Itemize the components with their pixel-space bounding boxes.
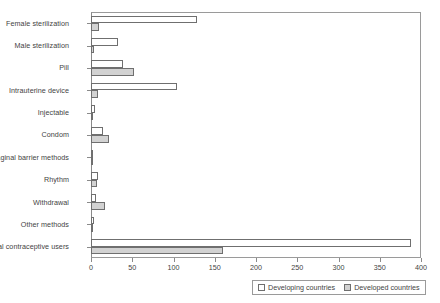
y-axis-category-label: Total contraceptive users	[0, 242, 69, 251]
chart-rows: Female sterilizationMale sterilizationPi…	[0, 12, 421, 258]
chart-row: Female sterilization	[0, 12, 421, 34]
y-axis-category-label: Other methods	[0, 220, 69, 229]
y-axis-category-label: Pill	[0, 63, 69, 72]
y-axis-category-label: Condom	[0, 130, 69, 139]
bar-developed	[91, 180, 97, 188]
legend-label: Developing countries	[268, 283, 335, 292]
bar-developing	[91, 172, 98, 180]
x-axis-tick	[132, 258, 133, 262]
x-axis-tick-label: 150	[200, 263, 230, 272]
chart-row: Condom	[0, 124, 421, 146]
bar-developed	[91, 23, 99, 31]
x-axis-tick	[297, 258, 298, 262]
bar-developed	[91, 68, 134, 76]
x-axis-tick-label: 0	[76, 263, 106, 272]
bar-chart: Female sterilizationMale sterilizationPi…	[0, 0, 440, 303]
chart-row: Total contraceptive users	[0, 236, 421, 258]
x-axis-tick-label: 50	[117, 263, 147, 272]
x-axis-tick	[174, 258, 175, 262]
bar-developing	[91, 16, 197, 24]
bar-developing	[91, 239, 411, 247]
y-axis-category-label: Intrauterine device	[0, 86, 69, 95]
legend-swatch-developed-icon	[344, 284, 351, 291]
x-axis-tick	[91, 258, 92, 262]
chart-row: Injectable	[0, 101, 421, 123]
chart-row: Withdrawal	[0, 191, 421, 213]
x-axis-tick-label: 300	[324, 263, 354, 272]
chart-legend: Developing countriesDeveloped countries	[252, 280, 426, 295]
y-axis-category-label: Vaginal barrier methods	[0, 153, 69, 162]
y-axis-category-label: Male sterilization	[0, 41, 69, 50]
bar-developing	[91, 150, 93, 158]
y-axis-category-label: Withdrawal	[0, 198, 69, 207]
legend-item-developing[interactable]: Developing countries	[258, 283, 335, 292]
x-axis-tick	[421, 258, 422, 262]
chart-row: Male sterilization	[0, 34, 421, 56]
bar-developed	[91, 113, 93, 121]
bar-developing	[91, 127, 103, 135]
y-axis-category-label: Injectable	[0, 108, 69, 117]
x-axis-tick	[256, 258, 257, 262]
bar-developed	[91, 46, 94, 54]
bar-developed	[91, 202, 105, 210]
legend-swatch-developing-icon	[258, 284, 265, 291]
bar-developed	[91, 224, 93, 232]
bar-developing	[91, 194, 96, 202]
bar-developing	[91, 38, 118, 46]
y-axis-category-label: Female sterilization	[0, 19, 69, 28]
x-axis-tick-label: 400	[406, 263, 436, 272]
bar-developed	[91, 135, 109, 143]
chart-row: Other methods	[0, 213, 421, 235]
chart-row: Pill	[0, 57, 421, 79]
legend-item-developed[interactable]: Developed countries	[344, 283, 420, 292]
chart-row: Vaginal barrier methods	[0, 146, 421, 168]
bar-developing	[91, 217, 94, 225]
x-axis-tick	[380, 258, 381, 262]
x-axis-tick	[339, 258, 340, 262]
bar-developing	[91, 60, 123, 68]
bar-developing	[91, 83, 177, 91]
y-axis-category-label: Rhythm	[0, 175, 69, 184]
x-axis-tick-label: 200	[241, 263, 271, 272]
bar-developed	[91, 247, 223, 255]
x-axis: 050100150200250300350400	[91, 258, 421, 280]
x-axis-tick	[215, 258, 216, 262]
x-axis-tick-label: 100	[159, 263, 189, 272]
x-axis-tick-label: 250	[282, 263, 312, 272]
chart-row: Rhythm	[0, 169, 421, 191]
bar-developing	[91, 105, 95, 113]
x-axis-tick-label: 350	[365, 263, 395, 272]
chart-row: Intrauterine device	[0, 79, 421, 101]
bar-developed	[91, 90, 98, 98]
legend-label: Developed countries	[354, 283, 420, 292]
bar-developed	[91, 157, 93, 165]
